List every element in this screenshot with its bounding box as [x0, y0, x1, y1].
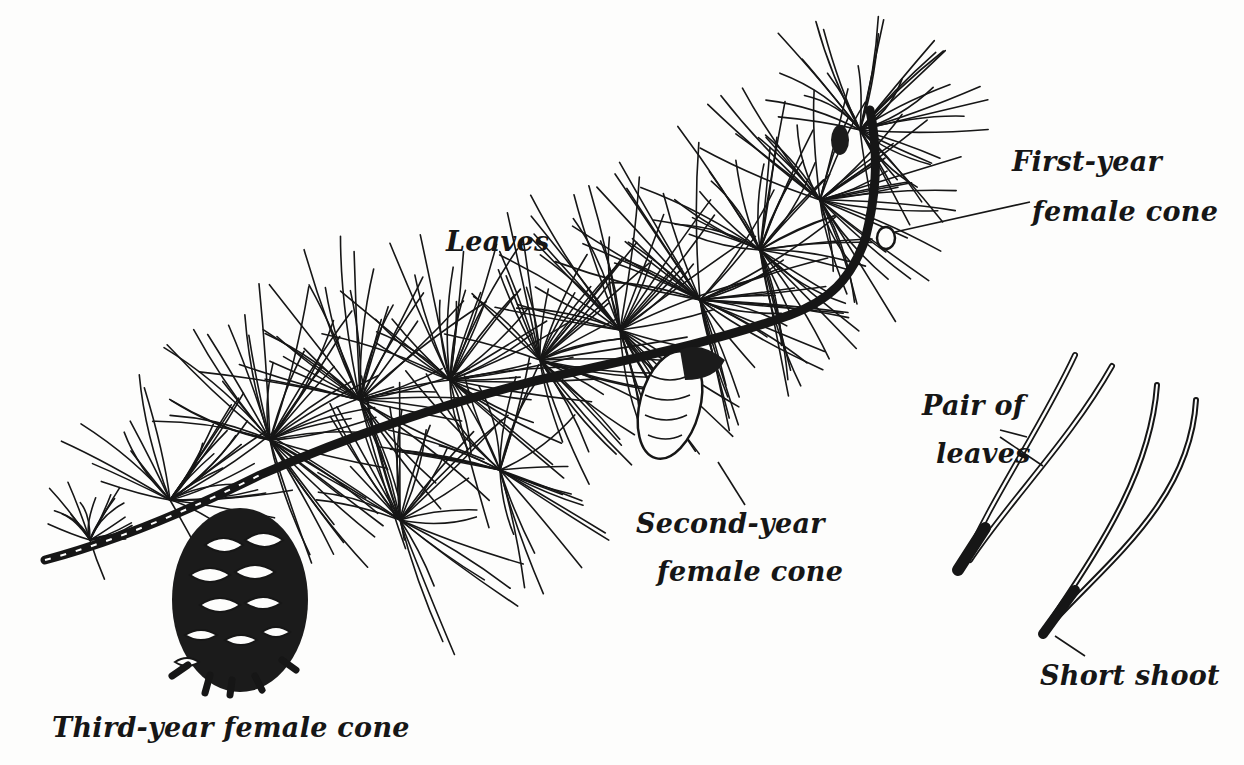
label-pair-line1: Pair of	[922, 390, 1025, 421]
label-third-year-cone: Third-year female cone	[52, 712, 410, 743]
short-shoot-drawing	[1043, 385, 1196, 634]
label-first-year-line1: First-year	[1012, 146, 1162, 177]
label-first-year-line2: female cone	[1032, 196, 1218, 227]
label-pair-line2: leaves	[936, 438, 1031, 469]
label-leaves: Leaves	[446, 226, 550, 257]
second-year-cone	[627, 344, 725, 466]
pine-branch-illustration	[0, 0, 1244, 765]
label-short-shoot: Short shoot	[1040, 660, 1220, 691]
leader-lines	[718, 202, 1085, 656]
label-second-year-line2: female cone	[657, 556, 843, 587]
third-year-cone	[172, 508, 308, 695]
label-second-year-line1: Second-year	[636, 508, 825, 539]
pine-branch-diagram: Leaves First-year female cone Second-yea…	[0, 0, 1244, 765]
